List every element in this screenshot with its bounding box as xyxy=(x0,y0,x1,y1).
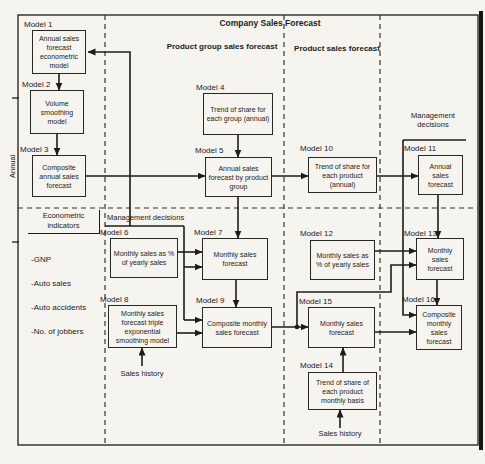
diagram-title: Company Sales Forecast xyxy=(170,19,370,29)
model-2-label: Model 2 xyxy=(22,80,50,89)
arrow-feedback-m1 xyxy=(88,52,130,226)
indicator-jobbers: -No. of jobbers xyxy=(31,326,86,338)
model-8-box: Monthly sales forecast triple exponentia… xyxy=(108,305,177,348)
model-8-label: Model 8 xyxy=(100,295,128,304)
model-10-box: Trend of share for each product (annual) xyxy=(308,157,377,193)
model-16-label: Model 16 xyxy=(402,295,435,304)
model-1-label: Model 1 xyxy=(24,20,52,29)
model-1-box: Annual sales forecast econometric model xyxy=(32,30,86,74)
model-12-box: Monthly sales as % of yearly sales xyxy=(310,240,375,280)
model-13-label: Model 13 xyxy=(404,229,437,238)
indicator-gnp: -GNP xyxy=(31,254,86,266)
sales-history-right: Sales history xyxy=(310,430,370,439)
indicator-auto-sales: -Auto sales xyxy=(31,278,86,290)
model-4-box: Trend of share for each group (annual) xyxy=(203,93,273,135)
management-decisions-left: Management decisions xyxy=(107,214,184,223)
indicator-auto-accidents: -Auto accidents xyxy=(31,302,86,314)
annual-side-label: Annual xyxy=(9,136,18,196)
model-3-label: Model 3 xyxy=(20,145,48,154)
model-14-box: Trend of share of each product monthly b… xyxy=(308,372,377,410)
model-9-label: Model 9 xyxy=(196,296,224,305)
model-10-label: Model 10 xyxy=(300,144,333,153)
arrow-mgmt-m16 xyxy=(403,140,416,315)
product-column-header: Product sales forecast xyxy=(252,44,422,53)
model-16-box: Composite monthly sales forecast xyxy=(416,305,462,350)
model-11-box: Annual sales forecast xyxy=(418,155,463,195)
model-2-box: Volume smoothing model xyxy=(30,90,84,134)
model-11-label: Model 11 xyxy=(404,144,436,153)
model-12-label: Model 12 xyxy=(300,229,333,238)
econometric-indicators-label: Econometric indicators xyxy=(28,210,100,234)
model-13-box: Monthly sales forecast xyxy=(416,238,464,280)
model-4-label: Model 4 xyxy=(196,83,224,92)
model-5-box: Annual sales forecast by product group xyxy=(205,157,272,197)
management-decisions-right: Management decisions xyxy=(402,112,464,129)
model-15-box: Monthly sales forecast xyxy=(308,307,375,348)
model-6-box: Monthly sales as % of yearly sales xyxy=(110,238,178,278)
model-5-label: Model 5 xyxy=(195,146,223,155)
model-14-label: Model 14 xyxy=(300,361,333,370)
model-3-box: Composite annual sales forecast xyxy=(32,155,86,197)
econometric-indicator-list: -GNP -Auto sales -Auto accidents -No. of… xyxy=(31,242,86,350)
model-15-label: Model 15 xyxy=(299,297,332,306)
junction-dot xyxy=(295,325,300,330)
sales-history-left: Sales history xyxy=(112,370,172,379)
model-7-label: Model 7 xyxy=(194,228,222,237)
model-7-box: Monthly sales forecast xyxy=(202,238,268,280)
model-9-box: Composite monthly sales forecast xyxy=(202,307,272,348)
sales-forecast-diagram: Company Sales Forecast Product group sal… xyxy=(0,0,485,464)
model-6-label: Model 6 xyxy=(100,228,128,237)
